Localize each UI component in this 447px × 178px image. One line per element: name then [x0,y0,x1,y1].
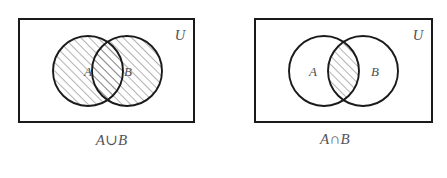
universe-label: U [175,27,187,43]
venn-panel-union: A B U A∪B [0,0,223,178]
set-b-label: B [371,64,379,79]
caption-intersection: A∩B [223,131,447,148]
venn-panel-intersection: A B U A∩B [223,0,447,178]
set-b-label: B [124,64,132,79]
set-a-label: A [308,64,317,79]
venn-diagram-figure: A B U A∪B [0,0,447,178]
universe-label: U [413,27,425,43]
venn-intersection-graphic: A B U [223,0,447,130]
set-a-label: A [83,64,92,79]
caption-union: A∪B [0,131,223,149]
venn-union-graphic: A B U [0,0,223,130]
